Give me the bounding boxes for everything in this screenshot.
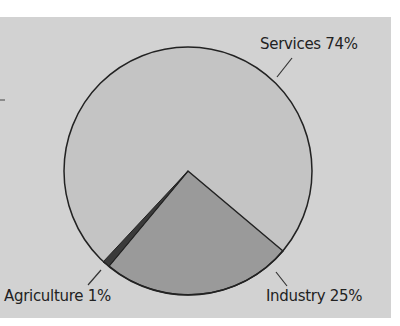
label-agriculture: Agriculture 1% [4, 287, 111, 305]
label-services: Services 74% [260, 35, 358, 53]
leader-services [277, 58, 292, 77]
leader-agriculture [88, 270, 101, 285]
leader-industry [276, 272, 287, 286]
label-industry: Industry 25% [266, 287, 362, 305]
